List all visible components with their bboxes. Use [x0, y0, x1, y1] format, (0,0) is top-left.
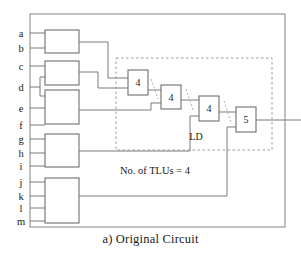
tlu-1-label: 4	[136, 77, 141, 88]
net-block2-to-tlu1	[79, 72, 128, 88]
pin-label-l: l	[20, 203, 23, 214]
net-block1-to-tlu1	[79, 42, 128, 78]
net-block3-to-tlu2	[79, 103, 161, 110]
circuit-diagram: a b c d e f g h i j k l m 4 4 4 5 LD No.…	[0, 0, 301, 253]
input-wires	[30, 33, 45, 221]
logic-block-1	[45, 30, 79, 53]
cut-mark-1	[151, 79, 158, 99]
pin-label-m: m	[17, 216, 25, 227]
pin-label-g: g	[18, 134, 24, 145]
tlu-2-label: 4	[169, 92, 174, 103]
logic-block-2	[45, 61, 79, 85]
pin-label-b: b	[18, 43, 23, 54]
tlu-boxes	[128, 70, 256, 132]
pin-label-i: i	[20, 161, 23, 172]
tlu-count-annotation: No. of TLUs = 4	[120, 165, 191, 176]
logic-block-5	[45, 178, 79, 223]
pin-labels: a b c d e f g h i j k l m	[17, 28, 25, 227]
net-block5-to-tlu4	[79, 127, 236, 196]
pin-label-c: c	[19, 61, 24, 72]
pin-label-k: k	[18, 191, 24, 202]
pin-label-h: h	[18, 148, 24, 159]
logic-blocks	[45, 30, 79, 223]
figure-caption: a) Original Circuit	[0, 232, 301, 247]
pin-label-j: j	[19, 177, 23, 188]
figure-container: a b c d e f g h i j k l m 4 4 4 5 LD No.…	[0, 0, 301, 253]
net-block4-to-tlu3	[79, 116, 199, 151]
pin-label-e: e	[19, 103, 24, 114]
pin-label-d: d	[18, 82, 24, 93]
logic-block-4	[45, 134, 79, 167]
tlu-4-label: 5	[244, 114, 249, 125]
tlu-3-label: 4	[207, 103, 212, 114]
logic-block-3	[45, 90, 79, 124]
partition-label: LD	[189, 131, 202, 142]
pin-label-a: a	[19, 28, 24, 39]
pin-label-f: f	[19, 120, 23, 131]
